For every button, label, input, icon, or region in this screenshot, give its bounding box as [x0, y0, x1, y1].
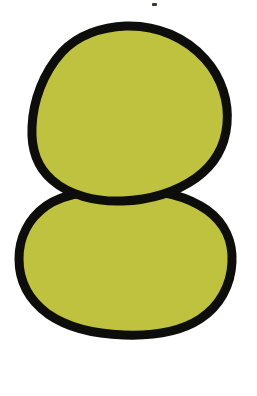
lower-blob: [19, 190, 232, 335]
ink-speck: [152, 3, 157, 6]
upper-blob: [32, 26, 227, 201]
drawing-canvas: [0, 0, 257, 396]
artboard: [0, 0, 257, 396]
